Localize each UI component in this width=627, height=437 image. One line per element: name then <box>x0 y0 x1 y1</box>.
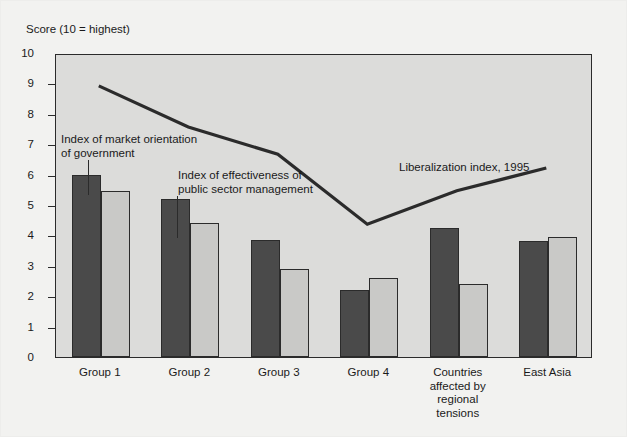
plot-area <box>55 54 592 358</box>
bar-public-sector-4 <box>459 284 488 357</box>
annotation-market-orientation: Index of market orientation of governmen… <box>61 133 197 160</box>
y-tick-label-1: 1 <box>0 322 34 334</box>
x-axis-label-1: Group 2 <box>145 366 235 380</box>
chart-figure: Score (10 = highest) 10 9 8 7 6 5 4 3 2 … <box>0 0 627 437</box>
bar-public-sector-5 <box>548 237 577 357</box>
bar-market-orientation-0 <box>72 175 101 357</box>
y-tick-label-5: 5 <box>0 200 34 212</box>
bar-public-sector-2 <box>280 269 309 357</box>
y-tick-label-2: 2 <box>0 291 34 303</box>
y-tick-label-0: 0 <box>0 352 34 364</box>
x-axis-label-4: Countries affected by regional tensions <box>413 366 503 420</box>
bar-public-sector-0 <box>101 191 130 357</box>
annotation-liberalization: Liberalization index, 1995 <box>399 161 529 175</box>
x-axis-label-0: Group 1 <box>55 366 145 380</box>
leader-line-public-sector <box>177 196 178 238</box>
bar-market-orientation-1 <box>161 199 190 357</box>
y-axis-title: Score (10 = highest) <box>26 23 130 35</box>
x-axis-label-3: Group 4 <box>324 366 414 380</box>
bar-market-orientation-3 <box>340 290 369 357</box>
y-tick-label-10: 10 <box>0 48 34 60</box>
bar-public-sector-1 <box>190 223 219 357</box>
y-tick-label-4: 4 <box>0 230 34 242</box>
y-tick-label-3: 3 <box>0 261 34 273</box>
annotation-public-sector: Index of effectiveness of public sector … <box>178 169 313 196</box>
x-axis-label-2: Group 3 <box>234 366 324 380</box>
x-axis-label-5: East Asia <box>503 366 593 380</box>
bar-public-sector-3 <box>369 278 398 357</box>
bar-market-orientation-5 <box>519 241 548 357</box>
y-tick-label-8: 8 <box>0 109 34 121</box>
y-tick-label-9: 9 <box>0 78 34 90</box>
leader-line-market-orientation <box>88 160 89 195</box>
y-tick-label-7: 7 <box>0 139 34 151</box>
y-tick-label-6: 6 <box>0 170 34 182</box>
bar-market-orientation-4 <box>430 228 459 357</box>
bar-market-orientation-2 <box>251 240 280 357</box>
